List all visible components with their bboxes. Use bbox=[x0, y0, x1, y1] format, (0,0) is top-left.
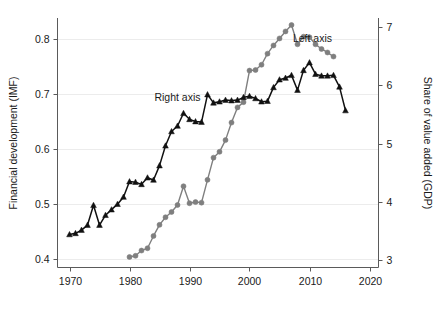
data-point bbox=[289, 23, 294, 28]
data-point bbox=[181, 184, 186, 189]
right-axis-title: Share of value added (GDP) bbox=[422, 77, 434, 210]
x-tick-label-1990: 1990 bbox=[179, 275, 203, 287]
x-tick-label-2020: 2020 bbox=[359, 275, 383, 287]
x-tick-label-1970: 1970 bbox=[59, 275, 83, 287]
left-tick-label-0.5: 0.5 bbox=[35, 198, 50, 210]
chart-background bbox=[0, 0, 441, 313]
data-point bbox=[229, 120, 234, 125]
right-tick-label-5: 5 bbox=[387, 138, 393, 150]
data-point bbox=[139, 248, 144, 253]
data-point bbox=[169, 209, 174, 214]
left-tick-label-0.4: 0.4 bbox=[35, 253, 50, 265]
left-tick-label-0.6: 0.6 bbox=[35, 143, 50, 155]
data-point bbox=[325, 50, 330, 55]
data-point bbox=[151, 233, 156, 238]
data-point bbox=[265, 51, 270, 56]
data-point bbox=[241, 100, 246, 105]
data-point bbox=[127, 254, 132, 259]
data-point bbox=[187, 201, 192, 206]
data-point bbox=[217, 149, 222, 154]
x-tick-label-2010: 2010 bbox=[299, 275, 323, 287]
left-axis-title: Financial development (IMF) bbox=[7, 76, 19, 209]
right-tick-label-3: 3 bbox=[387, 254, 393, 266]
data-point bbox=[253, 68, 258, 73]
left-tick-label-0.7: 0.7 bbox=[35, 88, 50, 100]
annotation-right-axis: Right axis bbox=[154, 91, 200, 103]
data-point bbox=[157, 222, 162, 227]
x-tick-label-1980: 1980 bbox=[119, 275, 143, 287]
x-tick-label-2000: 2000 bbox=[238, 275, 262, 287]
data-point bbox=[283, 29, 288, 34]
right-tick-label-4: 4 bbox=[387, 196, 393, 208]
data-point bbox=[205, 177, 210, 182]
left-tick-label-0.8: 0.8 bbox=[35, 33, 50, 45]
data-point bbox=[259, 62, 264, 67]
data-point bbox=[319, 46, 324, 51]
data-point bbox=[211, 155, 216, 160]
data-point bbox=[145, 246, 150, 251]
dual-axis-line-chart: 0.40.50.60.70.8 34567 197019801990200020… bbox=[0, 0, 441, 313]
data-point bbox=[133, 253, 138, 258]
data-point bbox=[235, 105, 240, 110]
chart-figure: 0.40.50.60.70.8 34567 197019801990200020… bbox=[0, 0, 441, 313]
data-point bbox=[247, 68, 252, 73]
right-tick-label-6: 6 bbox=[387, 79, 393, 91]
data-point bbox=[163, 215, 168, 220]
data-point bbox=[223, 138, 228, 143]
data-point bbox=[193, 200, 198, 205]
data-point bbox=[277, 36, 282, 41]
data-point bbox=[331, 54, 336, 59]
data-point bbox=[271, 43, 276, 48]
right-tick-label-7: 7 bbox=[387, 21, 393, 33]
data-point bbox=[199, 200, 204, 205]
annotation-left-axis: Left axis bbox=[293, 32, 332, 44]
data-point bbox=[175, 202, 180, 207]
